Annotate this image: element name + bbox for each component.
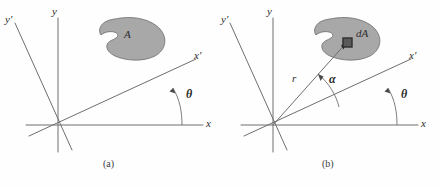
alpha-label: α xyxy=(329,73,336,85)
y-prime-axis-line xyxy=(230,23,287,150)
panel-b: y y′ x x′ dA r α θ (b) xyxy=(219,0,438,187)
x-axis-label: x xyxy=(421,118,426,129)
x-axis-label: x xyxy=(206,118,211,129)
theta-arc xyxy=(173,88,182,125)
x-prime-axis-line xyxy=(29,59,196,136)
area-label: A xyxy=(124,29,131,40)
theta-label: θ xyxy=(186,88,192,100)
area-blob xyxy=(100,17,165,60)
alpha-arrowhead xyxy=(318,74,324,81)
x-prime-axis-line xyxy=(244,59,411,136)
panel-b-caption: (b) xyxy=(322,158,334,169)
differential-area-label: dA xyxy=(356,28,368,39)
figure-root: y y′ x x′ A θ (a) xyxy=(0,0,439,187)
y-axis-label: y xyxy=(267,6,272,17)
y-prime-axis-label: y′ xyxy=(221,14,228,25)
differential-area-square xyxy=(343,38,352,47)
panel-a-caption: (a) xyxy=(103,158,114,169)
radius-label: r xyxy=(292,73,296,84)
y-prime-axis-line xyxy=(15,23,72,150)
panel-a: y y′ x x′ A θ (a) xyxy=(0,0,219,187)
y-axis-label: y xyxy=(52,6,57,17)
x-prime-axis-label: x′ xyxy=(194,50,201,61)
theta-arc xyxy=(388,88,397,125)
x-prime-axis-label: x′ xyxy=(409,50,416,61)
theta-label: θ xyxy=(401,88,407,100)
y-prime-axis-label: y′ xyxy=(5,14,12,25)
